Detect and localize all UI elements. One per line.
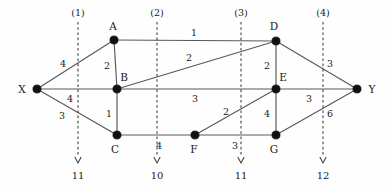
cut-name-4: (4) bbox=[316, 8, 329, 18]
edge-weight-b-d: 2 bbox=[186, 53, 192, 63]
node-label-b: B bbox=[120, 72, 128, 83]
edge-b-d bbox=[117, 41, 276, 89]
node-label-d: D bbox=[270, 21, 278, 32]
node-a bbox=[110, 36, 118, 44]
edge-g-y bbox=[276, 89, 357, 135]
cut-value-3: 11 bbox=[235, 171, 248, 181]
cut-name-3: (3) bbox=[234, 8, 247, 18]
edges-group bbox=[37, 40, 357, 135]
node-g bbox=[272, 131, 280, 139]
node-label-x: X bbox=[18, 84, 25, 95]
node-label-f: F bbox=[190, 144, 197, 155]
node-label-g: G bbox=[270, 144, 278, 155]
edge-a-d bbox=[114, 40, 276, 41]
edge-weight-g-y: 6 bbox=[327, 109, 333, 119]
edge-weight-d-y: 3 bbox=[327, 59, 333, 69]
node-y bbox=[353, 85, 361, 93]
edge-weight-e-g: 4 bbox=[264, 109, 270, 119]
cut-arrowhead-4 bbox=[320, 157, 326, 163]
node-label-c: C bbox=[111, 144, 119, 155]
cut-name-2: (2) bbox=[150, 8, 163, 18]
node-label-y: Y bbox=[369, 84, 376, 95]
node-label-a: A bbox=[109, 21, 117, 32]
edge-weight-x-b: 4 bbox=[67, 94, 73, 104]
node-label-e: E bbox=[279, 72, 287, 83]
cut-arrowhead-3 bbox=[238, 157, 244, 163]
edge-x-a bbox=[37, 40, 114, 89]
edge-weight-f-g: 3 bbox=[232, 141, 238, 151]
edge-weight-e-y: 3 bbox=[306, 94, 312, 104]
nodes-group bbox=[33, 36, 361, 139]
cut-value-1: 11 bbox=[72, 171, 85, 181]
cut-value-4: 12 bbox=[317, 171, 330, 181]
node-e bbox=[272, 85, 280, 93]
edge-weight-b-e: 3 bbox=[192, 94, 198, 104]
cut-value-2: 10 bbox=[151, 171, 164, 181]
edge-d-y bbox=[276, 41, 357, 89]
edge-weight-c-f: 4 bbox=[156, 141, 162, 151]
edge-weight-d-e: 2 bbox=[264, 61, 270, 71]
edge-a-b bbox=[114, 40, 117, 89]
edge-weight-a-b: 2 bbox=[104, 61, 110, 71]
node-c bbox=[113, 131, 121, 139]
node-d bbox=[272, 37, 280, 45]
edge-weight-x-c: 3 bbox=[59, 111, 65, 121]
edge-weight-b-c: 1 bbox=[106, 109, 112, 119]
node-b bbox=[113, 85, 121, 93]
node-x bbox=[33, 85, 41, 93]
edge-weight-f-e: 2 bbox=[223, 107, 229, 117]
edge-weight-a-d: 1 bbox=[191, 28, 197, 38]
cut-arrowhead-2 bbox=[154, 157, 160, 163]
network-flow-diagram: 4432123142323436(1)11(2)10(3)11(4)12XABC… bbox=[0, 0, 389, 191]
edge-weight-x-a: 4 bbox=[60, 59, 66, 69]
cut-name-1: (1) bbox=[71, 8, 84, 18]
node-f bbox=[191, 131, 199, 139]
cut-arrowhead-1 bbox=[75, 157, 81, 163]
